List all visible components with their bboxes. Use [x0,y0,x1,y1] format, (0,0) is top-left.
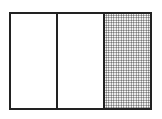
part-1-unshaded [11,14,56,108]
part-3-shaded [103,14,150,108]
fraction-bar [9,12,152,110]
part-2-unshaded [56,14,103,108]
